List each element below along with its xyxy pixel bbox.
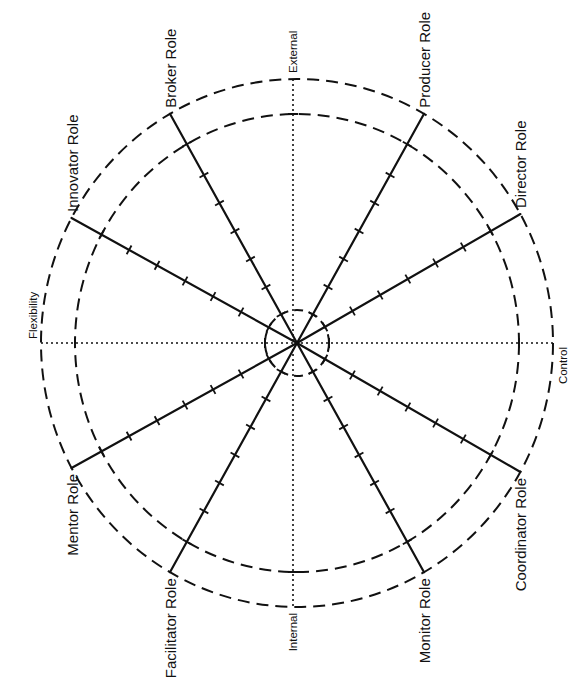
axis-label-internal: Internal [287, 613, 299, 651]
role-label-mentor: Mentor Role [64, 474, 81, 556]
spoke-coordinator-role [297, 343, 520, 472]
axis-label-external: External [287, 31, 299, 73]
role-label-broker: Broker Role [162, 29, 179, 108]
role-label-producer: Producer Role [416, 12, 433, 108]
spoke-producer-role [297, 114, 424, 343]
role-label-director: Director Role [512, 121, 529, 209]
axis-label-control: Control [557, 347, 569, 384]
role-label-coordinator: Coordinator Role [512, 478, 529, 591]
spoke-director-role [297, 214, 520, 343]
role-label-facilitator: Facilitator Role [162, 578, 179, 678]
axis-label-flexibility: Flexibility [27, 291, 39, 339]
role-label-innovator: Innovator Role [64, 114, 81, 212]
roles-wheel-diagram: External Internal Flexibility Control Pr… [0, 0, 580, 700]
role-label-monitor: Monitor Role [416, 578, 433, 663]
spoke-monitor-role [297, 343, 424, 572]
